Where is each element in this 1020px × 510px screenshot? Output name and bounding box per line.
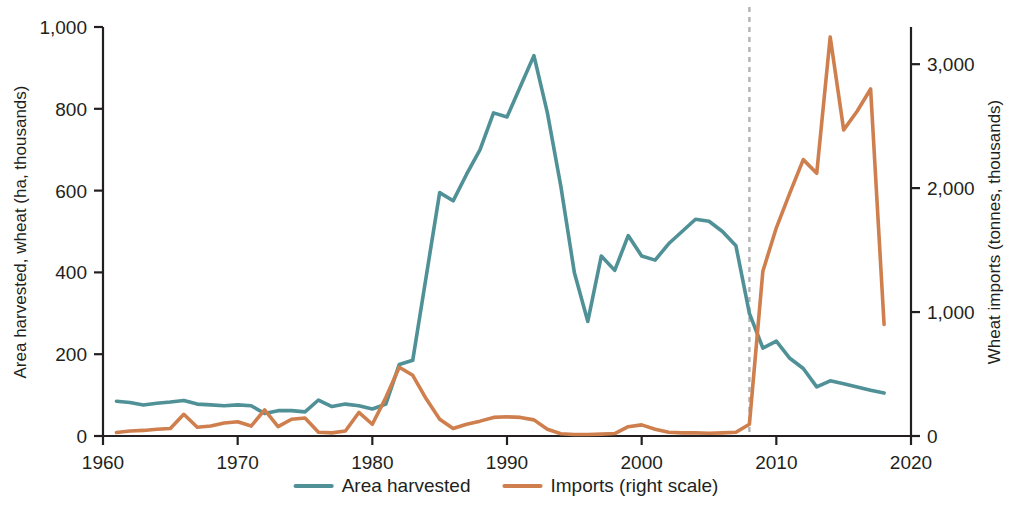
chart-legend: Area harvestedImports (right scale) (296, 475, 719, 496)
x-tick-label: 2000 (621, 452, 663, 473)
x-tick-label: 1970 (217, 452, 259, 473)
chart-figure: 02004006008001,000 01,0002,0003,000 1960… (0, 0, 1020, 510)
x-tick-label: 1990 (486, 452, 528, 473)
right-tick-label: 1,000 (927, 302, 975, 323)
left-tick-label: 600 (55, 181, 87, 202)
left-axis-title: Area harvested, wheat (ha, thousands) (11, 86, 30, 379)
x-axis-ticks: 1960197019801990200020102020 (82, 436, 932, 473)
right-axis-ticks: 01,0002,0003,000 (911, 54, 975, 447)
x-tick-label: 2020 (890, 452, 932, 473)
left-tick-label: 1,000 (39, 17, 87, 38)
left-tick-label: 800 (55, 99, 87, 120)
legend-label: Area harvested (342, 475, 471, 496)
right-axis-title: Wheat imports (tonnes, thousands) (985, 100, 1004, 365)
right-tick-label: 3,000 (927, 54, 975, 75)
x-tick-label: 1980 (351, 452, 393, 473)
x-tick-label: 2010 (755, 452, 797, 473)
left-tick-label: 0 (76, 426, 87, 447)
line-chart-svg: 02004006008001,000 01,0002,0003,000 1960… (0, 0, 1020, 510)
series-layer (116, 37, 884, 435)
legend-label: Imports (right scale) (550, 475, 718, 496)
left-tick-label: 200 (55, 344, 87, 365)
left-tick-label: 400 (55, 262, 87, 283)
x-tick-label: 1960 (82, 452, 124, 473)
left-axis-ticks: 02004006008001,000 (39, 17, 103, 447)
right-tick-label: 2,000 (927, 178, 975, 199)
right-tick-label: 0 (927, 426, 938, 447)
series-line (116, 37, 884, 435)
series-line (116, 56, 884, 414)
